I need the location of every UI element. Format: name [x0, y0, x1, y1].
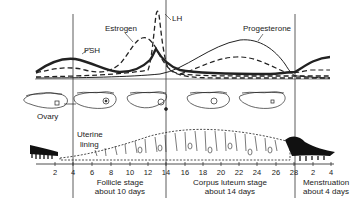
follicle-2-core [105, 100, 107, 102]
tick-label: 2 [311, 168, 315, 177]
ovary-drawings [24, 92, 285, 111]
corpus-luteum-stage-label: Corpus luteum stage [190, 178, 270, 187]
tick-label: 24 [253, 168, 261, 177]
ovary-5 [239, 92, 285, 108]
menstrual-shedding-end [285, 136, 335, 156]
follicle-stage-duration: about 10 days [90, 187, 150, 196]
fsh-label: FSH [84, 46, 100, 55]
ovary-2 [74, 92, 116, 108]
corpus-luteum [211, 98, 217, 104]
lh-label: LH [172, 14, 182, 23]
tick-label: 4 [71, 168, 75, 177]
menstrual-shedding-start [30, 145, 58, 156]
tick-label: 18 [199, 168, 207, 177]
ovum [165, 108, 168, 111]
estrogen-label: Estrogen [105, 24, 137, 33]
corpus-albicans [271, 100, 274, 103]
menstrual-cycle-diagram: Estrogen LH FSH Progesterone Ovary Uteri… [0, 0, 359, 208]
tick-label: 6 [90, 168, 94, 177]
tick-label: 22 [235, 168, 243, 177]
shedding-end-drips [300, 156, 324, 161]
tick-label: 14 [162, 168, 170, 177]
uterine-lining [30, 129, 335, 161]
ovary-4 [187, 92, 229, 108]
tick-label: 8 [109, 168, 113, 177]
tick-label: 2 [53, 168, 57, 177]
ovary-label: Ovary [37, 112, 58, 121]
estrogen-leader [125, 33, 133, 42]
tick-label: 26 [272, 168, 280, 177]
menstruation-stage-label: Menstruation [296, 178, 356, 187]
menstruation-stage-duration: about 4 days [296, 187, 356, 196]
tick-label: 12 [144, 168, 152, 177]
tick-label: 28 [290, 168, 298, 177]
lining-glands [95, 131, 277, 156]
uterine-lining-label-line2: lining [80, 140, 99, 149]
follicle-stage-label: Follicle stage [90, 178, 150, 187]
tick-label: 4 [329, 168, 333, 177]
tick-label: 20 [217, 168, 225, 177]
progesterone-label: Progesterone [243, 24, 291, 33]
tick-label: 10 [126, 168, 134, 177]
ovary-1 [24, 93, 68, 108]
lh-curve [36, 11, 330, 78]
follicle-1 [55, 101, 59, 105]
progesterone-leader [258, 34, 263, 41]
ovary-3 [127, 92, 166, 107]
corpus-luteum-stage-duration: about 14 days [190, 187, 270, 196]
fsh-curve [36, 49, 330, 74]
tick-label: 16 [181, 168, 189, 177]
uterine-lining-label-line1: Uterine [77, 130, 103, 139]
